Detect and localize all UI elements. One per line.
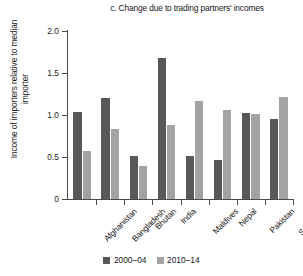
y-axis-tick bbox=[62, 199, 68, 200]
bar bbox=[167, 125, 175, 199]
x-axis-tick bbox=[237, 200, 238, 205]
y-axis-tick-label: 1.0 bbox=[47, 111, 59, 119]
plot-area bbox=[68, 31, 293, 199]
chart-legend: 2000–042010–14 bbox=[0, 256, 303, 264]
x-axis-tick bbox=[124, 200, 125, 205]
legend-label: 2000–04 bbox=[114, 256, 147, 264]
legend-label: 2010–14 bbox=[167, 256, 200, 264]
y-axis-title: Income of importers relative to median i… bbox=[9, 11, 31, 167]
x-axis-category-label: Nepal bbox=[237, 207, 258, 228]
y-axis-tick-label: 2.0 bbox=[47, 27, 59, 35]
bar bbox=[270, 119, 278, 199]
legend-swatch-icon bbox=[157, 257, 164, 264]
x-axis-category-label: Pakistan bbox=[268, 207, 296, 235]
bar bbox=[130, 156, 138, 199]
y-axis-tick-label: 0 bbox=[54, 195, 59, 203]
bar bbox=[279, 97, 287, 199]
x-axis-category-label: India bbox=[179, 207, 198, 226]
bar bbox=[242, 113, 250, 199]
x-axis-tick bbox=[96, 200, 97, 205]
x-axis-tick bbox=[152, 200, 153, 205]
bar bbox=[158, 58, 166, 199]
bar bbox=[214, 160, 222, 199]
x-axis-tick bbox=[209, 200, 210, 205]
chart-title: c. Change due to trading partners' incom… bbox=[74, 3, 300, 13]
bar bbox=[223, 110, 231, 199]
y-axis-tick-label: 1.5 bbox=[47, 69, 59, 77]
bar bbox=[139, 166, 147, 199]
bar bbox=[83, 151, 91, 199]
bar bbox=[195, 101, 203, 199]
chart-figure: c. Change due to trading partners' incom… bbox=[0, 0, 303, 276]
x-axis-tick bbox=[293, 200, 294, 205]
bar bbox=[251, 114, 259, 199]
x-axis-tick bbox=[265, 200, 266, 205]
legend-item[interactable]: 2010–14 bbox=[157, 256, 200, 264]
legend-swatch-icon bbox=[103, 257, 110, 264]
y-axis-tick-label: 0.5 bbox=[47, 153, 59, 161]
legend-item[interactable]: 2000–04 bbox=[103, 256, 146, 264]
x-axis-category-label: Sri Lanka bbox=[297, 207, 303, 237]
bar bbox=[186, 156, 194, 199]
x-axis-tick bbox=[181, 200, 182, 205]
bar bbox=[101, 98, 109, 199]
bar bbox=[111, 129, 119, 199]
bar bbox=[73, 112, 81, 199]
